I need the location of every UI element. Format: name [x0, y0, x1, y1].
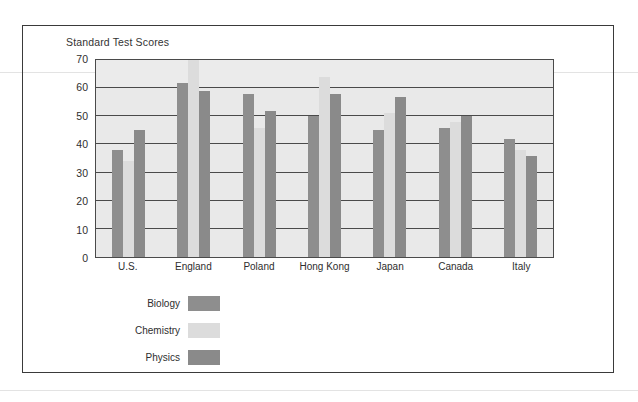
- y-tick-label: 20: [76, 195, 88, 207]
- legend-swatch-biology: [188, 296, 220, 311]
- y-tick-label: 10: [76, 224, 88, 236]
- bar-chemistry-japan: [384, 113, 395, 257]
- bar-physics-hong-kong: [330, 94, 341, 257]
- x-tick-label: Canada: [423, 261, 489, 272]
- bar-group: [161, 60, 226, 257]
- plot-area-wrapper: [95, 59, 554, 258]
- bar-chemistry-england: [188, 60, 199, 257]
- bar-biology-japan: [373, 130, 384, 257]
- legend-item: Chemistry: [60, 318, 220, 342]
- legend-label: Biology: [147, 298, 180, 309]
- bar-group: [227, 60, 292, 257]
- x-tick-label: U.S.: [95, 261, 161, 272]
- y-tick-label: 0: [82, 252, 88, 264]
- bar-group: [292, 60, 357, 257]
- bar-chemistry-poland: [254, 128, 265, 257]
- y-tick-label: 50: [76, 110, 88, 122]
- bar-group: [488, 60, 553, 257]
- bar-chemistry-u-s: [123, 161, 134, 257]
- x-tick-label: Poland: [226, 261, 292, 272]
- plot-area: [95, 59, 554, 258]
- x-tick-label: England: [161, 261, 227, 272]
- bar-biology-u-s: [112, 150, 123, 257]
- bar-physics-england: [199, 91, 210, 257]
- bar-biology-canada: [439, 128, 450, 257]
- x-axis-category-labels: U.S.EnglandPolandHong KongJapanCanadaIta…: [95, 261, 554, 272]
- bar-chemistry-hong-kong: [319, 77, 330, 257]
- y-tick-label: 70: [76, 53, 88, 65]
- bar-chemistry-canada: [450, 122, 461, 257]
- x-tick-label: Hong Kong: [292, 261, 358, 272]
- legend-swatch-physics: [188, 350, 220, 365]
- y-tick-label: 60: [76, 81, 88, 93]
- x-tick-label: Italy: [488, 261, 554, 272]
- y-axis-tick-labels: 706050403020100: [52, 59, 88, 258]
- bar-group: [357, 60, 422, 257]
- chart-title: Standard Test Scores: [66, 36, 169, 48]
- bar-groups: [96, 60, 553, 257]
- legend-swatch-chemistry: [188, 323, 220, 338]
- legend-item: Physics: [60, 345, 220, 369]
- bar-chemistry-italy: [515, 150, 526, 257]
- bar-biology-england: [177, 83, 188, 257]
- bar-physics-japan: [395, 97, 406, 257]
- y-tick-label: 30: [76, 167, 88, 179]
- chart-legend: BiologyChemistryPhysics: [60, 291, 220, 372]
- bar-physics-u-s: [134, 130, 145, 257]
- bar-group: [422, 60, 487, 257]
- legend-label: Chemistry: [135, 325, 180, 336]
- bar-physics-poland: [265, 111, 276, 257]
- x-tick-label: Japan: [357, 261, 423, 272]
- legend-label: Physics: [146, 352, 180, 363]
- legend-item: Biology: [60, 291, 220, 315]
- bar-group: [96, 60, 161, 257]
- bar-physics-canada: [461, 116, 472, 257]
- bar-biology-poland: [243, 94, 254, 257]
- page-rule-bottom: [0, 390, 638, 391]
- bar-biology-italy: [504, 139, 515, 257]
- bar-biology-hong-kong: [308, 116, 319, 257]
- bar-physics-italy: [526, 156, 537, 257]
- y-tick-label: 40: [76, 138, 88, 150]
